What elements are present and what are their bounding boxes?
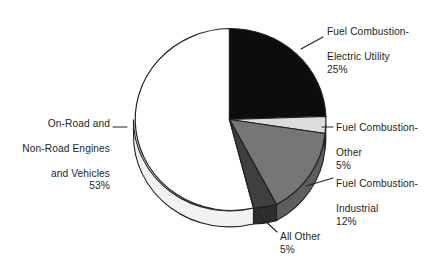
slice-label-percent: 25%	[327, 64, 439, 76]
slice-label-line3: and Vehicles	[51, 168, 110, 179]
slice-label-line2: Industrial	[336, 203, 378, 214]
slice-label-line2: Non-Road Engines	[22, 143, 110, 154]
slice-label-line1: Fuel Combustion-	[327, 26, 409, 37]
slice-label-percent: 53%	[6, 180, 110, 192]
slice-label-line1: Fuel Combustion-	[336, 178, 418, 189]
slice-label-fuel-combustion-electric-utility: Fuel Combustion- Electric Utility 25%	[327, 14, 439, 88]
slice-label-on-road-and-non-road-engines-and-vehicles: On-Road and Non-Road Engines and Vehicle…	[6, 106, 110, 205]
slice-label-percent: 5%	[280, 244, 390, 256]
pie-chart-figure: Fuel Combustion- Electric Utility 25% Fu…	[0, 0, 441, 261]
slice-label-all-other: All Other 5%	[280, 219, 390, 261]
pie-top-face	[135, 28, 326, 210]
slice-label-line2: Other	[336, 147, 362, 158]
slice-label-line2: Electric Utility	[327, 51, 390, 62]
slice-label-line1: All Other	[280, 231, 321, 242]
slice-label-line1: On-Road and	[48, 118, 110, 129]
slice-fuel-combustion-electric-utility	[230, 28, 326, 119]
leader-line-electric-utility	[301, 37, 323, 49]
slice-label-line1: Fuel Combustion-	[336, 122, 418, 133]
